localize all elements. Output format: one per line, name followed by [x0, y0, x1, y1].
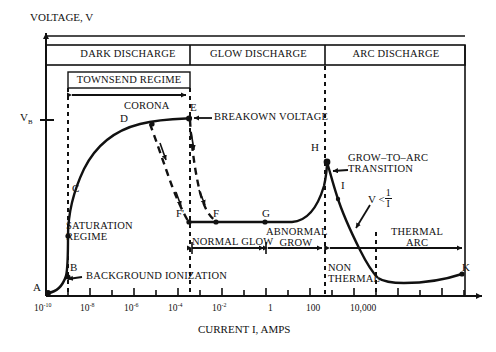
axis-x: [46, 288, 482, 296]
fraction-one-over-i: 1I: [385, 188, 392, 209]
band-label-dark-discharge: DARK DISCHARGE: [66, 48, 190, 59]
annotation-grow-to-arc-transition: GROW–TO–ARC TRANSITION: [348, 152, 428, 174]
y-tick-label-vb: VB: [20, 112, 33, 125]
figure-voltage-current-characteristic: VOLTAGE, V CURRENT I, AMPS VB DARK DISCH…: [0, 0, 496, 352]
curve-abnormal-glow: [292, 162, 327, 222]
curve-arc: [378, 274, 462, 283]
x-axis-title: CURRENT I, AMPS: [198, 324, 290, 336]
point-label-h: H: [311, 142, 319, 154]
regime-label-normal-glow: NORMAL GLOW: [192, 236, 266, 247]
x-tick-label-3: 10-4: [168, 302, 182, 314]
point-label-c: C: [72, 183, 79, 195]
point-label-e: E: [190, 102, 197, 114]
x-tick-label-7: 10,000: [350, 302, 376, 314]
curve-glow-to-arc: [327, 162, 378, 278]
annotation-corona: CORONA: [124, 100, 170, 111]
annotation-saturation-regime: SATURATION REGIME: [66, 220, 133, 242]
band-label-glow-discharge: GLOW DISCHARGE: [192, 48, 325, 59]
point-label-k: K: [462, 262, 470, 274]
annotation-background-ionization: BACKGROUND IONIZATION: [86, 270, 227, 281]
point-label-d: D: [120, 113, 128, 125]
x-tick-label-6: 100: [306, 302, 320, 314]
point-label-a: A: [33, 282, 41, 294]
annotation-v-less-than-one-over-i: V <1I: [368, 188, 392, 209]
annotation-non-thermal: NON THERMAL: [328, 262, 380, 284]
y-axis-title: VOLTAGE, V: [30, 12, 93, 24]
x-tick-label-0: 10-10: [34, 302, 51, 314]
x-tick-label-2: 10-6: [124, 302, 138, 314]
x-tick-label-1: 10-8: [80, 302, 94, 314]
point-label-f-prime: F': [176, 208, 184, 220]
regime-label-townsend: TOWNSEND REGIME: [68, 74, 190, 85]
point-label-g: G: [262, 208, 270, 220]
data-point-markers: [45, 116, 465, 297]
x-tick-label-4: 10-2: [212, 302, 226, 314]
point-label-i: I: [341, 180, 345, 192]
curve-breakdown-dashed: [190, 120, 216, 221]
annotation-breakdown-voltage: BREAKOWN VOLTAGE: [214, 111, 328, 122]
point-label-b: B: [70, 262, 77, 274]
point-label-f: F: [213, 208, 219, 220]
axis-y: [40, 33, 54, 296]
x-tick-label-5: 1: [268, 302, 273, 314]
band-label-arc-discharge: ARC DISCHARGE: [327, 48, 465, 59]
regime-label-abnormal-grow: ABNORMAL GROW: [266, 226, 326, 248]
regime-label-thermal-arc: THERMAL ARC: [382, 226, 452, 248]
callout-leaders: [68, 118, 370, 279]
